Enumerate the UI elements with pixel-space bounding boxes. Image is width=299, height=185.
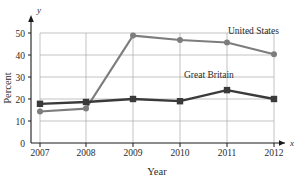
data-point-us-2011	[224, 40, 230, 46]
gridlines-vertical	[40, 33, 274, 143]
y-tick-label-10: 10	[16, 117, 26, 127]
x-axis-title: Year	[147, 166, 167, 177]
data-point-gb-2010	[177, 98, 183, 104]
data-point-gb-2009	[130, 96, 136, 102]
data-point-gb-2007	[37, 101, 43, 107]
data-point-us-2009	[130, 33, 136, 39]
data-point-gb-2012	[271, 96, 277, 102]
series-label-great-britain: Great Britain	[184, 70, 234, 80]
x-tick-label-2009: 2009	[124, 148, 143, 158]
line-chart: 50 40 30 20 10 0 2007 2008 2009 2010 201…	[0, 0, 299, 185]
y-tick-label-20: 20	[16, 95, 26, 105]
x-axis-variable-label: x	[289, 138, 294, 148]
y-axis-arrow	[28, 15, 34, 22]
x-tick-label-2010: 2010	[171, 148, 190, 158]
data-point-us-2010	[177, 37, 183, 43]
y-tick-label-0: 0	[20, 139, 25, 149]
x-tick-label-2008: 2008	[77, 148, 96, 158]
y-axis-variable-label: y	[36, 5, 41, 15]
y-tick-label-40: 40	[16, 51, 26, 61]
data-point-gb-2011	[224, 87, 230, 93]
series-markers-great-britain	[37, 87, 277, 107]
x-tick-label-2007: 2007	[31, 148, 50, 158]
x-tick-labels: 2007 2008 2009 2010 2011 2012	[31, 148, 284, 158]
x-tick-marks	[40, 143, 274, 147]
y-axis-title: Percent	[2, 72, 13, 104]
data-point-us-2008	[83, 106, 89, 112]
chart-canvas: 50 40 30 20 10 0 2007 2008 2009 2010 201…	[0, 0, 299, 185]
y-tick-labels: 50 40 30 20 10 0	[16, 29, 26, 149]
series-line-great-britain	[40, 90, 274, 104]
x-tick-label-2011: 2011	[218, 148, 237, 158]
series-label-united-states: United States	[228, 26, 279, 36]
x-axis-arrow	[279, 140, 285, 146]
x-tick-label-2012: 2012	[265, 148, 284, 158]
data-point-gb-2008	[83, 99, 89, 105]
y-tick-label-30: 30	[16, 73, 26, 83]
data-point-us-2012	[271, 51, 277, 57]
data-point-us-2007	[37, 109, 43, 115]
y-tick-label-50: 50	[16, 29, 26, 39]
